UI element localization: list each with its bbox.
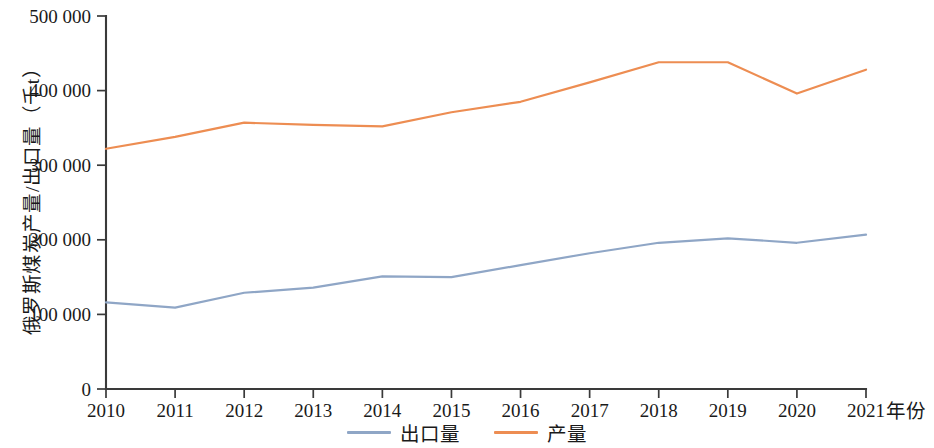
series-line-production xyxy=(106,62,866,149)
legend-label-export: 出口量 xyxy=(400,418,460,447)
y-tick-label: 0 xyxy=(82,379,92,400)
line-chart-plot: 0100 000200 000300 000400 000500 000 201… xyxy=(0,0,934,448)
chart-figure: 0100 000200 000300 000400 000500 000 201… xyxy=(0,0,934,448)
legend-swatch-production xyxy=(494,431,538,434)
legend-label-production: 产量 xyxy=(547,418,587,447)
legend-item-production[interactable]: 产量 xyxy=(494,418,587,447)
legend-item-export[interactable]: 出口量 xyxy=(347,418,460,447)
y-axis-title: 俄罗斯煤炭产量/出口量（千t） xyxy=(16,17,45,377)
series-line-export xyxy=(106,235,866,308)
legend-swatch-export xyxy=(347,431,391,434)
series-group xyxy=(106,62,866,307)
chart-legend: 出口量 产量 xyxy=(0,418,934,447)
x-axis-tick-group: 2010201120122013201420152016201720182019… xyxy=(87,389,885,421)
